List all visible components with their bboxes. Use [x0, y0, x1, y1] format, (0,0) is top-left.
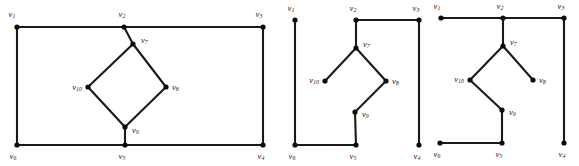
vertex-label-v6: v6: [10, 151, 17, 162]
vertex-label-v3: v3: [256, 9, 263, 20]
graph-edge-v8-v9: [125, 87, 166, 127]
vertex-label-v9: v9: [132, 125, 139, 136]
vertex-label-v2: v2: [119, 9, 126, 20]
graph-edge-v9-v5: [355, 112, 356, 145]
graph-vertex-v3: [260, 24, 265, 29]
graph-vertex-v7: [130, 41, 135, 46]
graph-vertex-v5: [122, 142, 127, 147]
graph-vertex-v9: [352, 109, 357, 114]
vertex-label-v2: v2: [497, 1, 504, 12]
vertex-label-v1: v1: [434, 1, 441, 12]
graph-vertex-v4: [561, 140, 566, 145]
graph-vertex-v9: [499, 107, 504, 112]
graph-vertex-v2: [121, 24, 126, 29]
graph-vertex-v5: [353, 142, 358, 147]
graph-vertex-v4: [416, 142, 421, 147]
graph-vertex-v6: [292, 142, 297, 147]
vertex-label-v7: v7: [141, 35, 149, 46]
vertex-label-v9: v9: [362, 109, 369, 120]
graph-vertex-v3: [561, 15, 566, 20]
diagram-canvas: v1v2v3v7v10v8v9v6v5v4v1v2v3v7v10v8v9v6v5…: [0, 0, 579, 166]
vertex-label-v8: v8: [539, 75, 546, 86]
graph-vertex-v10: [467, 77, 472, 82]
graph-vertex-v6: [14, 142, 19, 147]
vertex-label-v1: v1: [288, 3, 295, 14]
graph-vertex-v8: [530, 77, 535, 82]
vertex-label-v6: v6: [434, 149, 441, 160]
graph-vertex-v5: [499, 140, 504, 145]
vertex-label-v6: v6: [289, 151, 296, 162]
vertex-label-v5: v5: [119, 151, 126, 162]
graph-edge-v7-v10: [470, 46, 503, 80]
vertex-label-v1: v1: [9, 9, 16, 20]
vertex-label-v2: v2: [350, 3, 357, 14]
graph-edge-v7-v8: [503, 46, 533, 80]
vertex-label-v7: v7: [363, 39, 371, 50]
graph-vertex-v1: [14, 24, 19, 29]
graph-vertex-v1: [292, 17, 297, 22]
vertex-label-v7: v7: [510, 37, 518, 48]
graph-vertex-v9: [122, 124, 127, 129]
vertex-label-v5: v5: [350, 151, 357, 162]
vertex-label-v4: v4: [414, 151, 421, 162]
vertex-label-v10: v10: [454, 74, 464, 85]
graph-vertex-v10: [322, 78, 327, 83]
three-graph-diagram: v1v2v3v7v10v8v9v6v5v4v1v2v3v7v10v8v9v6v5…: [0, 0, 579, 166]
graph-vertex-v8: [383, 78, 388, 83]
graph-vertex-v4: [260, 142, 265, 147]
graph-edge-v7-v10: [325, 48, 356, 81]
graph-edge-v8-v9: [355, 81, 386, 112]
vertex-label-v9: v9: [509, 107, 516, 118]
vertex-label-v8: v8: [392, 76, 399, 87]
vertex-label-v10: v10: [72, 82, 82, 93]
graph-edge-v2-v7: [124, 27, 133, 44]
graph-vertex-v8: [163, 84, 168, 89]
vertex-label-v3: v3: [558, 1, 565, 12]
vertex-label-v3: v3: [413, 3, 420, 14]
graph-edge-v7-v10: [88, 44, 133, 87]
graph-2: v1v2v3v7v10v8v9v6v5v4: [288, 3, 422, 162]
graph-vertex-v7: [500, 43, 505, 48]
vertex-label-v8: v8: [172, 82, 179, 93]
graph-edge-v10-v9: [88, 87, 125, 127]
graph-vertex-v2: [500, 15, 505, 20]
graph-vertex-v10: [85, 84, 90, 89]
graph-vertex-v2: [353, 17, 358, 22]
graph-1: v1v2v3v7v10v8v9v6v5v4: [9, 9, 266, 162]
graph-vertex-v6: [437, 140, 442, 145]
vertex-label-v10: v10: [309, 75, 319, 86]
graph-vertex-v3: [416, 17, 421, 22]
vertex-label-v4: v4: [559, 149, 566, 160]
graph-edge-v10-v9: [470, 80, 502, 110]
graph-edge-v7-v8: [133, 44, 166, 87]
vertex-label-v4: v4: [258, 151, 265, 162]
graph-3: v1v2v3v7v10v8v9v6v5v4: [434, 1, 567, 160]
graph-edge-v7-v8: [356, 48, 386, 81]
graph-vertex-v7: [353, 45, 358, 50]
graph-vertex-v1: [438, 15, 443, 20]
vertex-label-v5: v5: [496, 149, 503, 160]
